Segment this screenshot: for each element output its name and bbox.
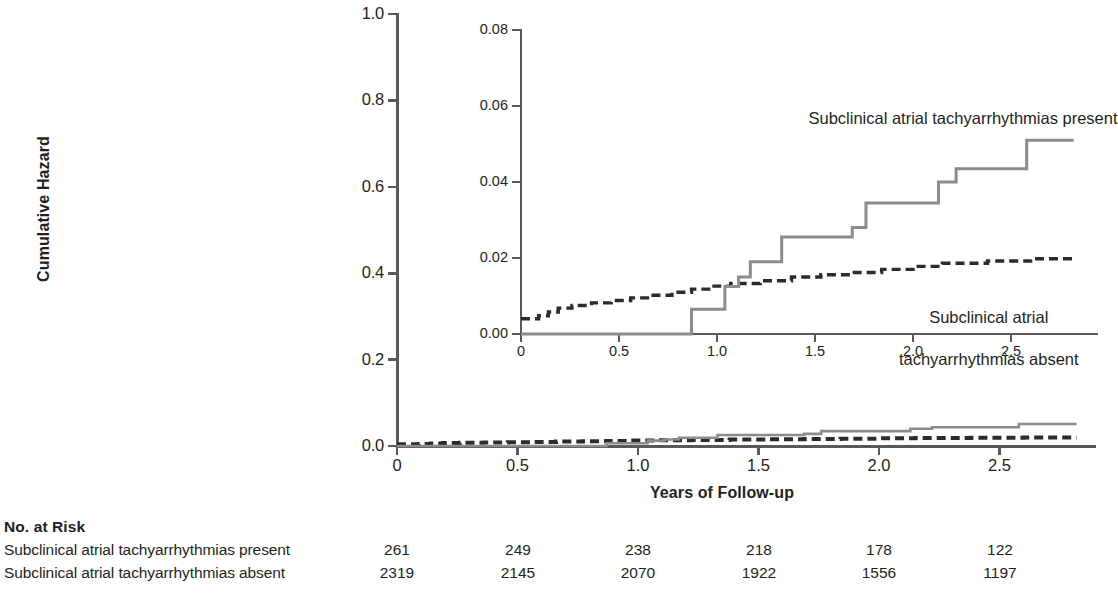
- main-x-tick: [396, 446, 399, 455]
- main-x-tick-label: 0.5: [488, 456, 548, 475]
- risk-value: 1197: [965, 564, 1035, 582]
- main-curve-present: [397, 424, 1077, 446]
- risk-value: 249: [483, 541, 553, 559]
- risk-row-label: Subclinical atrial tachyarrhythmias pres…: [4, 541, 290, 559]
- annotation-absent: Subclinical atrial tachyarrhythmias abse…: [871, 286, 1078, 391]
- inset-x-tick-label: 1.5: [787, 343, 843, 359]
- main-x-tick: [757, 446, 760, 455]
- inset-y-tick: [512, 181, 521, 183]
- main-x-tick-label: 2.0: [849, 456, 909, 475]
- risk-value: 218: [724, 541, 794, 559]
- inset-x-tick: [814, 334, 816, 342]
- main-curve-absent: [397, 437, 1077, 444]
- annotation-absent-line2: tachyarrhythmias absent: [899, 350, 1079, 368]
- table-row: Subclinical atrial tachyarrhythmias abse…: [0, 564, 1106, 588]
- inset-y-tick-label: 0.06: [455, 97, 508, 113]
- main-x-tick: [637, 446, 640, 455]
- table-row: Subclinical atrial tachyarrhythmias pres…: [0, 541, 1106, 565]
- inset-y-tick: [512, 29, 521, 31]
- risk-table: No. at Risk Subclinical atrial tachyarrh…: [0, 512, 1106, 604]
- risk-table-title: No. at Risk: [4, 518, 85, 536]
- main-x-tick: [878, 446, 881, 455]
- risk-value: 2145: [483, 564, 553, 582]
- main-y-tick-label: 0.0: [340, 436, 384, 455]
- main-x-tick-label: 0: [367, 456, 427, 475]
- inset-y-tick-label: 0.04: [455, 173, 508, 189]
- main-x-tick-label: 2.5: [970, 456, 1030, 475]
- risk-value: 1556: [844, 564, 914, 582]
- risk-row-label: Subclinical atrial tachyarrhythmias abse…: [4, 564, 285, 582]
- inset-y-tick-label: 0.02: [455, 249, 508, 265]
- risk-value: 1922: [724, 564, 794, 582]
- inset-y-tick: [512, 257, 521, 259]
- main-x-tick: [516, 446, 519, 455]
- inset-x-tick-label: 1.0: [689, 343, 745, 359]
- risk-value: 2070: [603, 564, 673, 582]
- inset-x-tick-label: 0.5: [591, 343, 647, 359]
- annotation-absent-line1: Subclinical atrial: [929, 308, 1048, 326]
- inset-x-tick: [716, 334, 718, 342]
- main-x-tick-label: 1.5: [729, 456, 789, 475]
- risk-value: 238: [603, 541, 673, 559]
- risk-value: 2319: [362, 564, 432, 582]
- inset-x-tick: [520, 334, 522, 342]
- main-x-tick: [998, 446, 1001, 455]
- inset-x-tick-label: 0: [493, 343, 549, 359]
- inset-x-tick: [618, 334, 620, 342]
- annotation-present: Subclinical atrial tachyarrhythmias pres…: [808, 108, 1117, 129]
- inset-y-tick-label: 0.08: [455, 21, 508, 37]
- main-x-tick-label: 1.0: [608, 456, 668, 475]
- risk-value: 178: [844, 541, 914, 559]
- inset-y-tick: [512, 105, 521, 107]
- x-axis-title: Years of Follow-up: [597, 484, 847, 502]
- inset-y-tick-label: 0.00: [455, 325, 508, 341]
- risk-value: 261: [362, 541, 432, 559]
- main-x-axis-line: [396, 445, 1096, 448]
- risk-value: 122: [965, 541, 1035, 559]
- inset-plot: 0.000.020.040.060.08 00.51.01.52.02.5 Su…: [0, 0, 1106, 400]
